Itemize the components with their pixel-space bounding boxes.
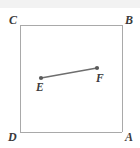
point-label-e: E [35, 81, 44, 93]
point-e-dot [39, 76, 43, 80]
figure-canvas: C B A D E F [0, 0, 140, 148]
point-label-f: F [95, 72, 104, 84]
vertex-label-d: D [7, 130, 17, 144]
vertex-label-c: C [9, 13, 18, 27]
segment-ef-line [41, 68, 97, 78]
geometry-figure: C B A D E F [0, 0, 140, 148]
segment-ef [39, 66, 99, 80]
vertex-label-a: A [124, 130, 133, 144]
square-abcd [20, 25, 122, 132]
vertex-label-b: B [124, 13, 133, 27]
point-f-dot [95, 66, 99, 70]
